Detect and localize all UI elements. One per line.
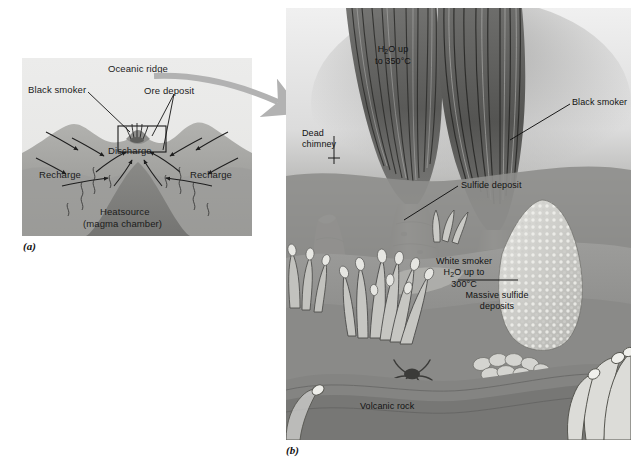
label-volcanic-rock: Volcanic rock bbox=[360, 401, 414, 412]
label-dead-chimney: Dead chimney bbox=[302, 128, 336, 149]
footer-faint-text bbox=[18, 447, 278, 456]
panel-b-artwork bbox=[286, 8, 631, 440]
label-heatsource: Heatsource bbox=[100, 206, 150, 217]
label-white-smoker-h2o: H2O up to bbox=[444, 267, 485, 277]
label-recharge-left: Recharge bbox=[39, 169, 81, 180]
label-massive-sulfide-deposits: Massive sulfide deposits bbox=[442, 290, 552, 311]
label-black-smoker: Black smoker bbox=[28, 84, 86, 95]
label-black-smoker-b: Black smoker bbox=[572, 97, 627, 108]
label-white-smoker: White smoker H2O up to 300°C bbox=[418, 256, 510, 289]
label-sulfide-deposit: Sulfide deposit bbox=[461, 180, 522, 191]
label-h2o-350-line1: H2O up bbox=[378, 44, 409, 54]
panel-b: H2O up to 350°C Black smoker Dead chimne… bbox=[286, 8, 631, 440]
panel-a-caption: (a) bbox=[23, 240, 36, 252]
label-magma-chamber: (magma chamber) bbox=[83, 218, 162, 229]
label-h2o-350-line2: to 350°C bbox=[375, 56, 411, 66]
panel-b-caption: (b) bbox=[286, 444, 299, 456]
label-h2o-350: H2O up to 350°C bbox=[348, 44, 438, 67]
figure-root: Oceanic ridge Black smoker Ore deposit D… bbox=[0, 0, 637, 475]
magnification-arrow bbox=[150, 72, 296, 118]
label-discharge: Discharge bbox=[108, 145, 152, 156]
label-recharge-right: Recharge bbox=[190, 169, 232, 180]
